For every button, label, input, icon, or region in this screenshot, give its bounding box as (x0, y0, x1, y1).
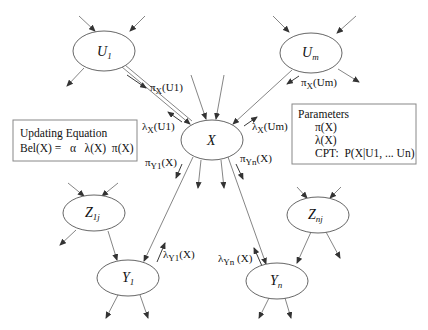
updating-equation-box: Updating Equation Bel(X) = α λ(X) π(X) (13, 120, 137, 161)
label-pi-x-u1: πX(U1) (150, 81, 183, 96)
updating-equation-formula: Bel(X) = α λ(X) π(X) (20, 142, 134, 155)
label-pi-y1-x: πY1(X) (145, 156, 177, 171)
node-znj: Znj (287, 197, 349, 233)
label-lambda-yn-x: λYn (X) (218, 252, 253, 267)
parameter-pi: π(X) (315, 121, 337, 134)
node-x: X (181, 120, 243, 160)
parameters-box: Parameters π(X) λ(X) CPT: P(X|U1, ... Un… (292, 104, 416, 164)
node-yn: Yn (246, 263, 308, 299)
label-lambda-y1-x: λY1(X) (163, 248, 195, 263)
node-x-label: X (206, 133, 216, 148)
label-pi-x-um: πX(Um) (301, 76, 337, 91)
node-z1j: Z1j (63, 195, 125, 231)
bayesian-network-diagram: U1 Um X Z1j Znj Y1 Yn πX(U1) λX(U1) πX(U… (0, 0, 428, 330)
node-y1: Y1 (97, 260, 159, 296)
node-um: Um (280, 33, 342, 73)
parameter-lambda: λ(X) (315, 134, 337, 147)
node-u1: U1 (73, 31, 135, 71)
parameters-title: Parameters (298, 108, 350, 120)
label-lambda-x-um: λX(Um) (252, 120, 288, 135)
label-lambda-x-u1: λX(U1) (142, 120, 175, 135)
label-pi-yn-x: πYn(X) (240, 152, 272, 167)
updating-equation-title: Updating Equation (20, 127, 107, 140)
parameter-cpt: CPT: P(X|U1, ... Un) (315, 147, 415, 160)
